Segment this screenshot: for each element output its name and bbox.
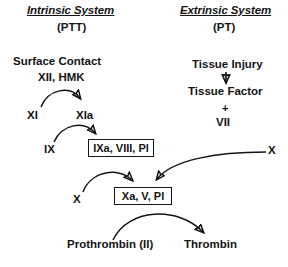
node-tissue-factor: Tissue Factor: [188, 86, 263, 98]
arrow-prothrombin-to-thrombin: [113, 214, 203, 240]
node-xi: XI: [27, 110, 38, 122]
header-extrinsic-subtitle: (PT): [213, 22, 235, 34]
node-vii: VII: [216, 117, 230, 129]
node-xii-hmk: XII, HMK: [38, 72, 85, 84]
node-thrombin: Thrombin: [184, 239, 237, 251]
node-prothrombin: Prothrombin (II): [67, 239, 153, 251]
node-xa-v-pl-box: Xa, V, Pl: [114, 187, 172, 205]
header-intrinsic-subtitle: (PTT): [57, 22, 86, 34]
header-extrinsic-title: Extrinsic System: [180, 5, 271, 17]
node-x-left: X: [73, 194, 81, 206]
node-plus-sign: +: [222, 103, 228, 114]
node-xia: XIa: [76, 110, 93, 122]
coagulation-cascade-diagram: Intrinsic System (PTT) Extrinsic System …: [0, 0, 288, 267]
arrow-x-right-to-xa-complex: [157, 152, 266, 179]
node-x-right: X: [268, 145, 276, 157]
node-ix: IX: [44, 144, 55, 156]
header-intrinsic-title: Intrinsic System: [27, 5, 114, 17]
arrow-layer: [0, 0, 288, 267]
node-tissue-injury: Tissue Injury: [192, 59, 263, 71]
arrow-xi-to-xia: [41, 90, 80, 107]
node-surface-contact: Surface Contact: [13, 56, 101, 68]
node-ixa-viii-pl-box: IXa, VIII, Pl: [88, 139, 154, 157]
